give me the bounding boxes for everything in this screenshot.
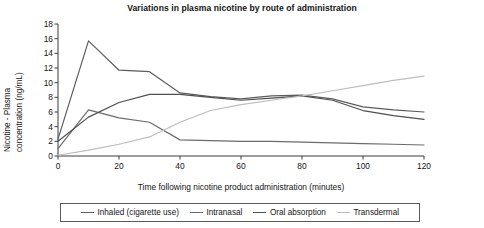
x-tick-label: 20 [114, 161, 123, 171]
y-tick-label: 16 [44, 34, 53, 44]
legend-swatch [190, 212, 203, 213]
series-line-intranasal [58, 110, 424, 149]
legend-item-transdermal[interactable]: Transdermal [337, 208, 399, 217]
legend-label: Transdermal [353, 208, 399, 217]
legend-item-intranasal[interactable]: Intranasal [190, 208, 242, 217]
legend-label: Oral absorption [270, 208, 326, 217]
series-line-oral-absorption [58, 94, 424, 141]
x-tick-label: 100 [356, 161, 370, 171]
y-tick-label: 4 [48, 122, 53, 132]
y-tick-label: 12 [44, 63, 53, 73]
legend-label: Intranasal [206, 208, 242, 217]
legend-swatch [337, 212, 350, 213]
chart-figure: Variations in plasma nicotine by route o… [0, 0, 484, 228]
y-tick-label: 8 [48, 92, 53, 102]
plot-area: 024681012141618 020406080100120 [58, 24, 424, 156]
legend-item-oral-absorption[interactable]: Oral absorption [253, 208, 325, 217]
y-tick-label: 14 [44, 48, 53, 58]
x-tick-label: 120 [417, 161, 431, 171]
x-tick-label: 40 [175, 161, 184, 171]
x-tick-label: 0 [56, 161, 61, 171]
legend-label: Inhaled (cigarette use) [97, 208, 178, 217]
y-tick-label: 0 [48, 151, 53, 161]
legend-swatch [253, 212, 266, 213]
chart-title: Variations in plasma nicotine by route o… [0, 3, 484, 13]
x-tick-label: 60 [236, 161, 245, 171]
y-axis-title-line-1: Nicotine - Plasma [3, 88, 12, 152]
series-line-inhaled-cigarette-use [58, 41, 424, 139]
y-tick-label: 10 [44, 78, 53, 88]
x-axis-title: Time following nicotine product administ… [58, 182, 424, 192]
chart-legend: Inhaled (cigarette use)IntranasalOral ab… [60, 203, 420, 222]
chart-canvas [58, 24, 424, 156]
axes-group [55, 24, 425, 160]
series-group [58, 41, 424, 155]
legend-item-inhaled-cigarette-use[interactable]: Inhaled (cigarette use) [81, 208, 179, 217]
y-tick-label: 6 [48, 107, 53, 117]
y-axis-title-line-2: concentration (ng/mL) [15, 72, 24, 152]
y-tick-label: 18 [44, 19, 53, 29]
y-axis-title: Nicotine - Plasma concentration (ng/mL) [0, 18, 30, 158]
legend-swatch [81, 212, 94, 213]
y-tick-label: 2 [48, 136, 53, 146]
x-tick-label: 80 [297, 161, 306, 171]
